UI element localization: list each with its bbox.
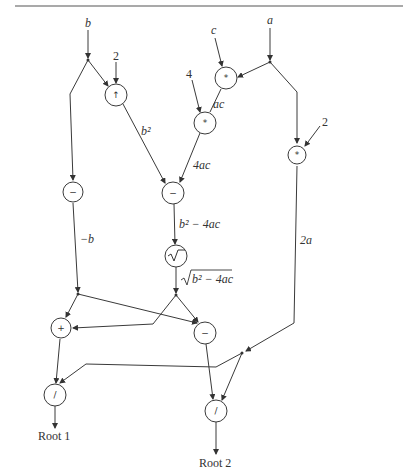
input-b: b <box>85 16 91 30</box>
negate-node: − <box>63 182 83 202</box>
svg-text:b² − 4ac: b² − 4ac <box>192 272 234 286</box>
mul-2a-node: * <box>288 146 306 164</box>
multiply-operator: * <box>224 73 229 83</box>
output-root1: Root 1 <box>38 429 70 443</box>
label-ac: ac <box>213 97 225 111</box>
subtract-disc-node: − <box>162 182 184 204</box>
label-2a: 2a <box>300 233 312 247</box>
input-four: 4 <box>186 67 192 81</box>
label-4ac: 4ac <box>193 158 211 172</box>
negate-operator: − <box>69 187 77 197</box>
label-sqrt-discriminant: b² − 4ac <box>181 270 234 286</box>
divide-root2-node: / <box>205 400 227 422</box>
divide-root1-node: / <box>44 384 66 406</box>
input-a: a <box>267 13 273 27</box>
subtract-node: − <box>194 322 216 344</box>
input-two-exponent: 2 <box>113 49 119 63</box>
edges <box>55 28 320 454</box>
input-two-multiplier: 2 <box>322 115 328 129</box>
label-b-squared: b² <box>141 124 151 138</box>
mul-ac-node: * <box>215 67 237 89</box>
label-neg-b: −b <box>80 232 94 246</box>
input-c: c <box>211 23 217 37</box>
sqrt-node <box>165 245 187 267</box>
add-node: + <box>51 318 71 338</box>
power-node: ↑ <box>105 84 127 106</box>
subtract-operator: − <box>201 328 209 338</box>
output-root2: Root 2 <box>199 456 231 470</box>
mul-4ac-node: * <box>194 112 216 134</box>
label-discriminant: b² − 4ac <box>179 217 221 231</box>
multiply-operator: * <box>203 118 208 128</box>
power-operator: ↑ <box>112 90 120 100</box>
add-operator: + <box>57 323 65 333</box>
subtract-operator: − <box>169 188 177 198</box>
quadratic-dataflow-diagram: ↑ * * * − − + − / / b 2 c a 4 <box>0 0 405 475</box>
multiply-operator: * <box>295 150 300 160</box>
